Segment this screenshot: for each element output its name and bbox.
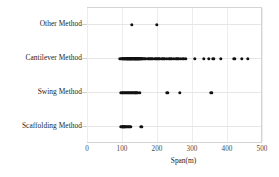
data-point (212, 57, 215, 60)
y-axis-tick (82, 126, 87, 127)
x-gridline (227, 8, 228, 142)
x-axis-title: Span(m) (0, 157, 279, 164)
data-point (138, 91, 141, 94)
x-gridline (157, 8, 158, 142)
x-gridline (192, 8, 193, 142)
y-axis-label-swing-method: Swing Method (38, 88, 82, 95)
x-tick-400: 400 (222, 146, 233, 153)
y-gridline (88, 24, 261, 25)
y-axis-label-cantilever-method: Cantilever Method (26, 54, 82, 61)
y-axis-tick (82, 92, 87, 93)
y-axis-category-labels: Other MethodCantilever MethodSwing Metho… (0, 0, 82, 177)
x-tick-500: 500 (257, 146, 268, 153)
x-tick-200: 200 (152, 146, 163, 153)
data-point (240, 57, 243, 60)
scatter-plot-figure: Other MethodCantilever MethodSwing Metho… (0, 0, 279, 177)
x-gridline (262, 8, 263, 142)
x-tick-300: 300 (187, 146, 198, 153)
data-point (184, 57, 187, 60)
y-axis-label-other-method: Other Method (40, 20, 82, 27)
data-point (207, 57, 210, 60)
y-gridline (88, 92, 261, 93)
data-point (178, 91, 181, 94)
x-axis-title-text: Span(m) (171, 157, 196, 164)
data-point (209, 91, 212, 94)
y-axis-label-scaffolding-method: Scaffolding Method (22, 122, 82, 129)
data-point (166, 91, 169, 94)
data-point (202, 57, 205, 60)
x-tick-100: 100 (117, 146, 128, 153)
data-point (139, 125, 142, 128)
y-gridline (88, 126, 261, 127)
x-gridline (87, 8, 88, 142)
data-point (193, 57, 196, 60)
data-point (155, 23, 158, 26)
y-axis-tick (82, 58, 87, 59)
x-tick-0: 0 (85, 146, 89, 153)
data-point (129, 125, 132, 128)
data-point (130, 23, 133, 26)
x-gridline (122, 8, 123, 142)
data-point (219, 57, 222, 60)
y-axis-tick (82, 24, 87, 25)
data-point (246, 57, 249, 60)
data-point (233, 57, 236, 60)
plot-area (87, 7, 262, 143)
